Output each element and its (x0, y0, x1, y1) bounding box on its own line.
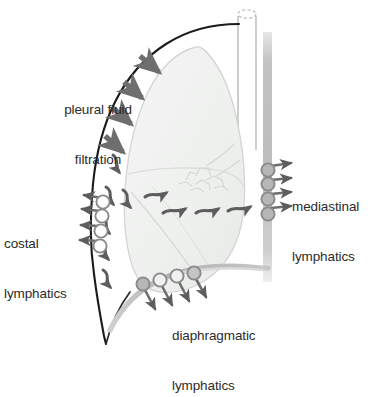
label-mediastinal-lymphatics-line1: mediastinal (292, 199, 374, 216)
label-pleural-fluid-filtration-line2: filtration (46, 152, 150, 169)
label-mediastinal-lymphatics-line2: lymphatics (292, 249, 374, 266)
label-pleural-fluid-filtration: pleural fluid filtration (46, 69, 150, 201)
mediastinum-band (263, 32, 272, 282)
trachea (238, 10, 256, 150)
label-diaphragmatic-lymphatics-line1: diaphragmatic (172, 328, 292, 345)
label-costal-lymphatics-line1: costal (4, 236, 84, 253)
mediastinal-lymphatics-group (261, 163, 291, 221)
label-costal-lymphatics-line2: lymphatics (4, 286, 84, 303)
label-costal-lymphatics: costal lymphatics (4, 203, 84, 335)
label-diaphragmatic-lymphatics: diaphragmatic lymphatics (172, 295, 292, 397)
label-pleural-fluid-filtration-line1: pleural fluid (46, 102, 150, 119)
label-mediastinal-lymphatics: mediastinal lymphatics (292, 166, 374, 298)
label-diaphragmatic-lymphatics-line2: lymphatics (172, 378, 292, 395)
